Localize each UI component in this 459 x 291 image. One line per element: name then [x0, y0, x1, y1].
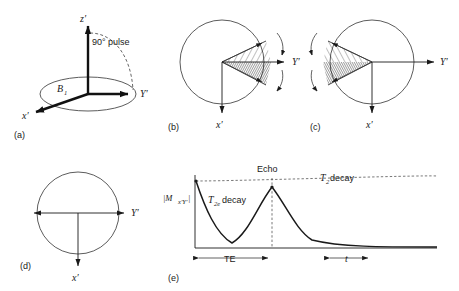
t2-decay-label-suffix: decay	[330, 173, 355, 183]
t2-decay-envelope	[196, 176, 437, 181]
t2e-decay-signal-curve	[196, 181, 437, 247]
x-axis-arrow-a	[36, 94, 88, 112]
rotation-arrow-top-b	[277, 33, 283, 55]
y-axis-label-d: Y′	[131, 207, 140, 218]
b1-subscript: 1	[64, 89, 67, 96]
x-axis-label-c: x′	[365, 119, 373, 130]
t2e-decay-label-suffix: decay	[222, 195, 247, 205]
b1-label: B	[57, 83, 63, 94]
panel-a: z′ Y′ x′ B 1 90° pulse (a)	[14, 13, 149, 140]
rotation-arrow-top-c	[311, 33, 317, 55]
rotation-arrow-bottom-c	[311, 70, 317, 91]
panel-b: Y′ x′ (b)	[168, 20, 301, 132]
x-axis-label-a: x′	[21, 110, 29, 121]
te-label: TE	[224, 254, 236, 264]
magnetization-label-close: |	[188, 193, 190, 203]
panel-e: |M x′Y′ | Echo T 2 decay T 2e decay TE t…	[163, 164, 437, 283]
y-axis-label-a: Y′	[140, 88, 149, 99]
panel-e-id: (e)	[168, 273, 179, 283]
panel-d: Y′ x′ (d)	[20, 172, 140, 283]
ninety-degree-pulse-label: 90° pulse	[92, 37, 130, 47]
x-axis-label-d: x′	[71, 272, 79, 283]
panel-b-id: (b)	[168, 122, 179, 132]
x-axis-label-b: x′	[215, 119, 223, 130]
z-axis-label: z′	[79, 13, 87, 24]
echo-label: Echo	[257, 164, 278, 174]
time-label: t	[345, 253, 348, 264]
panel-c-id: (c)	[310, 122, 321, 132]
panel-d-id: (d)	[20, 261, 31, 271]
magnetization-label-open: |M	[163, 193, 173, 203]
rotation-arrow-bottom-b	[277, 70, 283, 91]
spin-echo-figure: z′ Y′ x′ B 1 90° pulse (a) Y′ x′ (b)	[0, 0, 459, 291]
y-axis-label-b: Y′	[292, 56, 301, 67]
y-axis-label-c: Y′	[440, 56, 449, 67]
echo-peak-marker	[270, 185, 273, 188]
figure-canvas: z′ Y′ x′ B 1 90° pulse (a) Y′ x′ (b)	[0, 0, 459, 291]
t2e-decay-label-subscript: 2e	[214, 200, 220, 207]
panel-c: Y′ x′ (c)	[310, 20, 449, 132]
panel-a-id: (a)	[14, 130, 25, 140]
signal-origin-marker	[194, 179, 197, 182]
magnetization-label-subscript: x′Y′	[177, 198, 188, 205]
